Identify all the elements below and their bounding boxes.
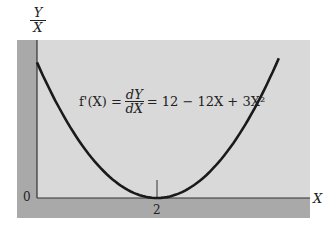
- x-axis-label: X: [313, 191, 322, 206]
- x-tick-label: 2: [153, 203, 161, 217]
- y-label-denominator: X: [30, 21, 46, 35]
- fraction-numerator: dY: [125, 88, 144, 102]
- fraction-denominator: dX: [125, 102, 143, 115]
- equation-lhs: f'(X) =: [79, 94, 122, 109]
- y-label-numerator: Y: [30, 6, 46, 21]
- marginal-curve: [37, 58, 279, 198]
- equation-annotation: f'(X) = dY dX = 12 − 12X + 3X²: [79, 88, 265, 115]
- origin-label: 0: [23, 190, 31, 204]
- equation-rhs: = 12 − 12X + 3X²: [147, 94, 265, 109]
- derivative-fraction: dY dX: [125, 88, 144, 115]
- y-axis-label: Y X: [30, 6, 46, 35]
